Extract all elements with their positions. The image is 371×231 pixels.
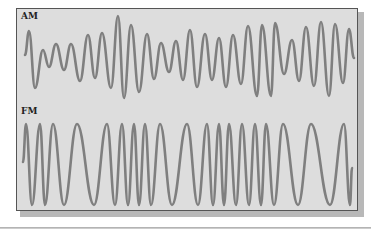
waveform-canvas [0, 0, 371, 231]
am-waveform [25, 16, 354, 98]
separator-line [0, 227, 371, 229]
am-label: AM [21, 11, 38, 21]
fm-waveform [23, 124, 352, 205]
fm-label: FM [21, 106, 37, 116]
